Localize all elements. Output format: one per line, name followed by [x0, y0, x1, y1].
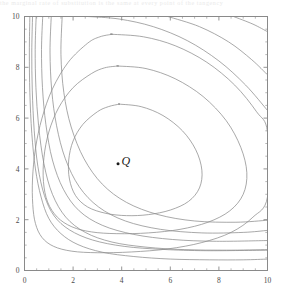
y-tick-label: 10: [12, 12, 20, 21]
contour-line-level-6-corner: [233, 17, 267, 32]
x-tick-label: 0: [23, 276, 27, 285]
contour-line-level-4-open: [88, 17, 268, 111]
contour-plot-svg: 02468100246810 Q: [0, 0, 282, 298]
contour-line-level-3: [32, 34, 269, 253]
x-tick-label: 10: [264, 276, 272, 285]
contour-line-level-asym-5: [32, 17, 268, 251]
x-tick-label: 8: [217, 276, 221, 285]
y-tick-label: 8: [16, 63, 20, 72]
x-tick-label: 6: [168, 276, 172, 285]
contour-lines: [29, 17, 269, 260]
point-marker-Q: [117, 162, 120, 165]
contour-line-level-1-inner: [68, 104, 202, 216]
x-tick-label: 4: [120, 276, 124, 285]
contour-line-level-asym-1: [35, 17, 267, 251]
tick-labels: 02468100246810: [12, 12, 272, 284]
contour-line-level-5-open: [168, 17, 268, 75]
y-tick-label: 0: [16, 266, 20, 275]
annotations-layer: Q: [117, 154, 131, 168]
contour-line-level-2: [43, 66, 247, 234]
y-tick-label: 4: [16, 165, 20, 174]
x-tick-label: 2: [71, 276, 75, 285]
y-tick-label: 6: [16, 114, 20, 123]
y-tick-label: 2: [16, 216, 20, 225]
point-label-Q: Q: [122, 154, 131, 168]
contour-plot-figure: the marginal rate of substitution is the…: [0, 0, 282, 298]
